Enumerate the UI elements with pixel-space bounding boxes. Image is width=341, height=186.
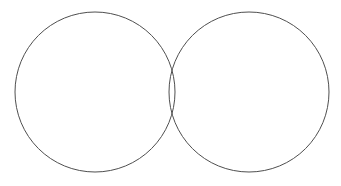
figure-background (0, 0, 341, 186)
figure-canvas (0, 0, 341, 186)
two-circles-figure (0, 0, 341, 186)
